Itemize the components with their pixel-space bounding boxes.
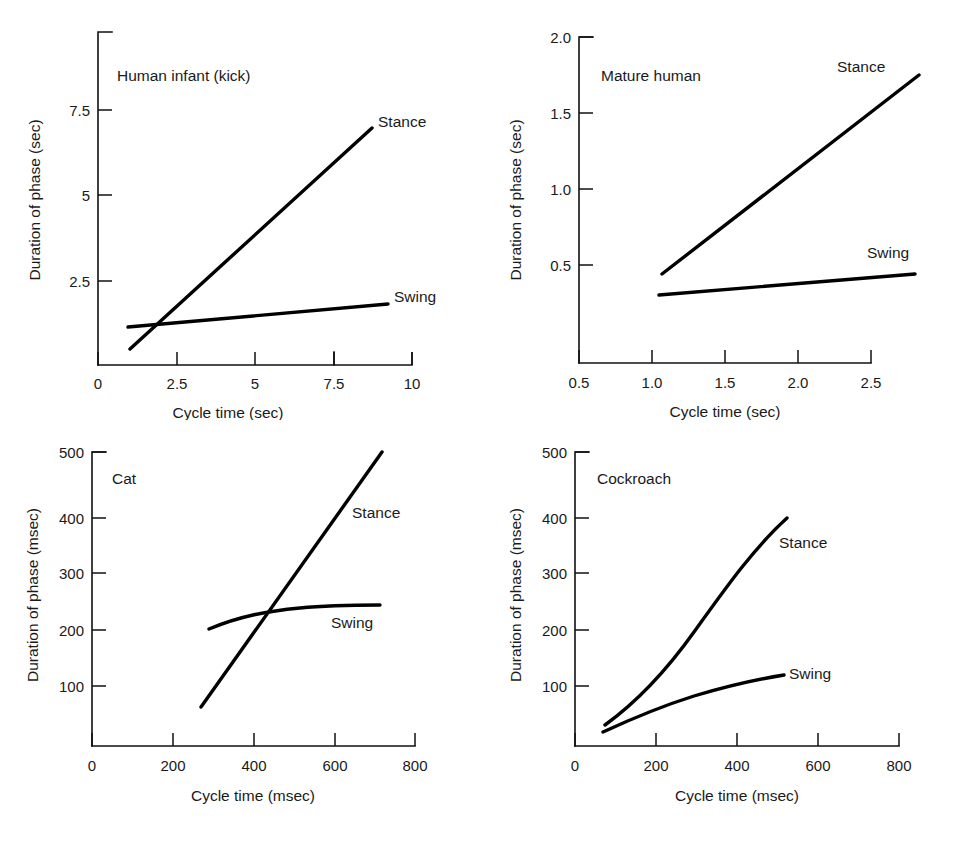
x-tick-label-0: 0 — [571, 757, 579, 774]
panel-human-infant-kick: 7.5 5 2.5 0 2.5 5 7.5 10 Cycle time (sec… — [0, 0, 479, 420]
chart-human-infant-kick: 7.5 5 2.5 0 2.5 5 7.5 10 Cycle time (sec… — [0, 0, 479, 420]
panel-cat: 500 400 300 200 100 0 200 400 600 800 Cy… — [0, 420, 479, 845]
y-tick-label-1-5: 1.5 — [550, 105, 571, 122]
chart-cockroach: 500 400 300 200 100 0 200 400 600 800 Cy… — [479, 420, 958, 845]
figure-root: 7.5 5 2.5 0 2.5 5 7.5 10 Cycle time (sec… — [0, 0, 958, 845]
swing-label: Swing — [867, 244, 909, 261]
x-tick-label-7-5: 7.5 — [324, 375, 345, 392]
panel-title: Cat — [112, 470, 137, 487]
stance-label: Stance — [378, 113, 426, 130]
y-tick-label-500: 500 — [542, 444, 567, 461]
y-tick-label-2-5: 2.5 — [69, 273, 90, 290]
swing-label: Swing — [331, 614, 373, 631]
x-tick-label-1-0: 1.0 — [642, 374, 663, 391]
x-tick-label-800: 800 — [402, 757, 427, 774]
y-tick-label-200: 200 — [59, 622, 84, 639]
x-axis-title: Cycle time (sec) — [172, 404, 283, 420]
x-tick-label-2-5: 2.5 — [861, 374, 882, 391]
x-tick-label-600: 600 — [805, 757, 830, 774]
y-tick-label-100: 100 — [542, 678, 567, 695]
x-axis-title: Cycle time (msec) — [191, 787, 315, 804]
y-tick-label-500: 500 — [59, 444, 84, 461]
y-axis-title: Duration of phase (sec) — [507, 119, 524, 280]
y-tick-label-300: 300 — [59, 565, 84, 582]
stance-label: Stance — [779, 534, 827, 551]
stance-label: Stance — [837, 58, 885, 75]
panel-title: Cockroach — [597, 470, 671, 487]
swing-label: Swing — [789, 665, 831, 682]
x-tick-label-1-5: 1.5 — [715, 374, 736, 391]
x-tick-label-5: 5 — [251, 375, 259, 392]
y-tick-label-200: 200 — [542, 622, 567, 639]
chart-cat: 500 400 300 200 100 0 200 400 600 800 Cy… — [0, 420, 479, 845]
y-axis-title: Duration of phase (sec) — [26, 119, 43, 280]
panel-mature-human: 2.0 1.5 1.0 0.5 0.5 1.0 1.5 2.0 2.5 Cycl… — [479, 0, 958, 420]
y-axis — [98, 32, 112, 365]
x-tick-label-2-0: 2.0 — [788, 374, 809, 391]
y-tick-label-300: 300 — [542, 565, 567, 582]
swing-label: Swing — [394, 288, 436, 305]
y-tick-label-0-5: 0.5 — [550, 257, 571, 274]
x-tick-label-2-5: 2.5 — [167, 375, 188, 392]
x-axis-title: Cycle time (sec) — [669, 403, 780, 420]
y-tick-label-1-0: 1.0 — [550, 181, 571, 198]
panel-cockroach: 500 400 300 200 100 0 200 400 600 800 Cy… — [479, 420, 958, 845]
x-tick-label-400: 400 — [724, 757, 749, 774]
y-axis — [575, 452, 589, 746]
swing-line — [659, 274, 915, 295]
x-axis-title: Cycle time (msec) — [675, 787, 799, 804]
x-tick-label-400: 400 — [241, 757, 266, 774]
y-tick-label-400: 400 — [59, 510, 84, 527]
x-tick-label-600: 600 — [322, 757, 347, 774]
panel-title: Human infant (kick) — [117, 67, 251, 84]
y-axis — [579, 37, 593, 363]
chart-mature-human: 2.0 1.5 1.0 0.5 0.5 1.0 1.5 2.0 2.5 Cycl… — [479, 0, 958, 420]
x-tick-label-0: 0 — [94, 375, 102, 392]
y-tick-label-2-0: 2.0 — [550, 29, 571, 46]
x-tick-label-800: 800 — [886, 757, 911, 774]
y-tick-label-100: 100 — [59, 678, 84, 695]
x-tick-label-10: 10 — [404, 375, 421, 392]
x-tick-label-200: 200 — [643, 757, 668, 774]
stance-label: Stance — [352, 504, 400, 521]
y-tick-label-7-5: 7.5 — [69, 102, 90, 119]
x-axis — [98, 352, 334, 365]
x-tick-label-0: 0 — [88, 757, 96, 774]
panel-title: Mature human — [601, 67, 701, 84]
y-tick-label-400: 400 — [542, 510, 567, 527]
x-tick-label-200: 200 — [160, 757, 185, 774]
x-tick-label-0-5: 0.5 — [569, 374, 590, 391]
y-axis — [92, 452, 106, 746]
stance-line — [201, 452, 382, 707]
y-axis-title: Duration of phase (msec) — [507, 508, 524, 682]
y-axis-title: Duration of phase (msec) — [24, 508, 41, 682]
y-tick-label-5: 5 — [82, 187, 90, 204]
